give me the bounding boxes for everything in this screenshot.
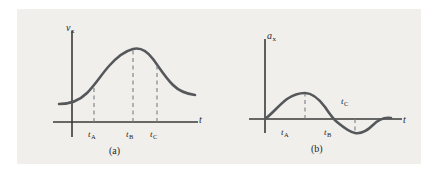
tick-label-tb: tB <box>126 130 133 139</box>
acceleration-plot-svg <box>219 9 421 164</box>
y-axis-label-velocity: vx <box>66 23 74 33</box>
x-axis-label-time: t <box>199 115 202 125</box>
tick-label-ta: tA <box>88 130 95 139</box>
panel-caption-a: (a) <box>109 146 120 156</box>
tick-label-ta: tA <box>281 128 288 137</box>
panel-caption-b: (b) <box>311 144 323 154</box>
tick-label-tc: tC <box>341 97 348 106</box>
panel-velocity: vx t tA tB tC (a) <box>17 9 219 164</box>
x-axis-label-time: t <box>403 115 406 125</box>
panel-acceleration: ax t tA tB tC (b) <box>219 9 421 164</box>
velocity-plot-svg <box>17 9 219 164</box>
tick-label-tc: tC <box>150 130 157 139</box>
tick-label-tb: tB <box>324 128 331 137</box>
velocity-curve <box>59 48 195 104</box>
y-axis-label-acceleration: ax <box>267 31 276 41</box>
figure-plate: vx t tA tB tC (a) ax t tA tB <box>17 9 421 164</box>
figure-sheet: vx t tA tB tC (a) ax t tA tB <box>0 0 438 173</box>
